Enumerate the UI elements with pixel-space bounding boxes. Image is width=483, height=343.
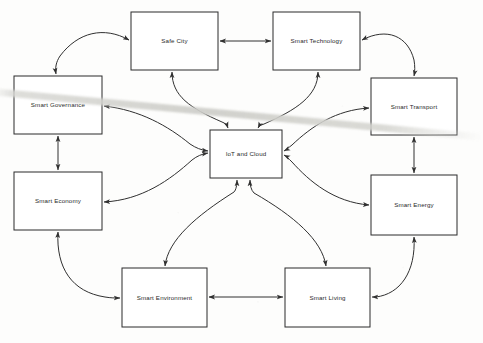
node-smart-governance[interactable] xyxy=(14,76,102,134)
node-smart-technology[interactable] xyxy=(273,12,360,70)
node-smart-transport[interactable] xyxy=(371,78,457,135)
node-smart-economy[interactable] xyxy=(14,172,102,230)
node-smart-energy[interactable] xyxy=(371,175,457,235)
node-safe-city[interactable] xyxy=(131,12,218,70)
node-smart-environment[interactable] xyxy=(122,268,207,327)
node-iot-and-cloud[interactable] xyxy=(210,130,282,178)
node-smart-living[interactable] xyxy=(285,268,370,327)
